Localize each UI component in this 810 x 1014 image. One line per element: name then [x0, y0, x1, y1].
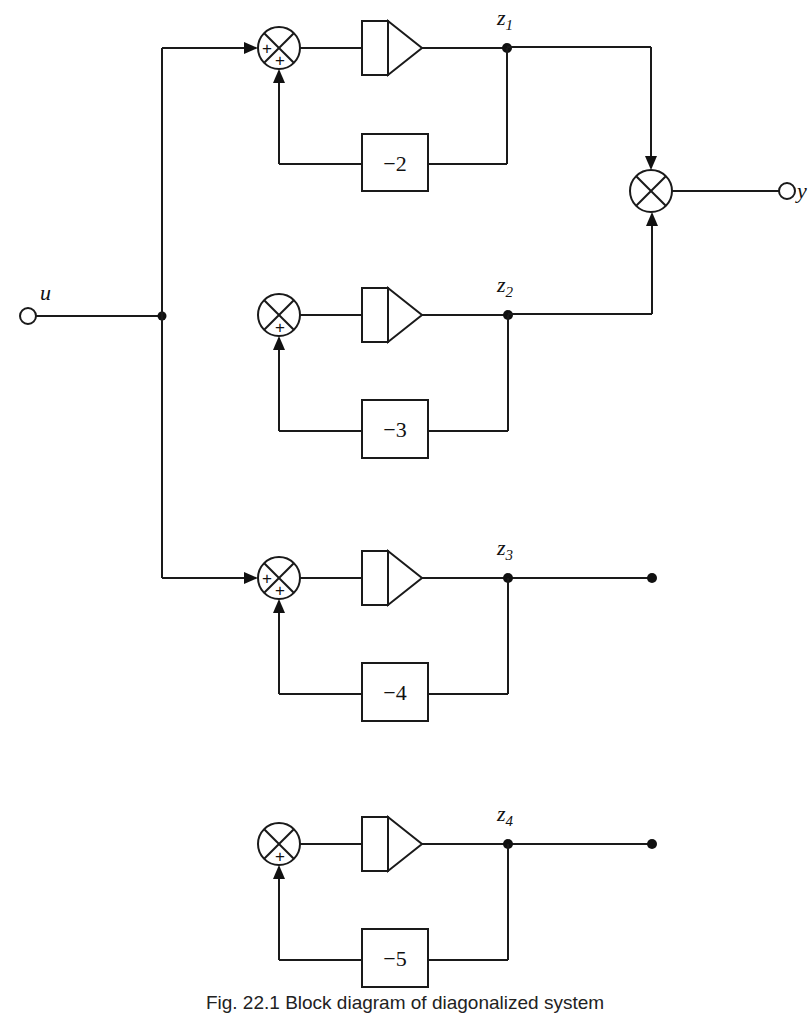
summer-sign-left: + [262, 569, 272, 588]
integrator-icon [362, 21, 422, 75]
summer-sign-bottom: + [275, 318, 285, 337]
summing-junction-icon [630, 170, 672, 212]
arrow-up-icon [273, 599, 285, 613]
input-terminal [20, 308, 167, 324]
state-label: z3 [496, 535, 513, 563]
branch-z3: + + z3 −4 [258, 535, 657, 721]
branch-z1: + + z1 −2 [258, 5, 657, 191]
arrow-up-icon [273, 69, 285, 83]
input-label: u [40, 280, 51, 305]
branch-z2: + z2 −3 [258, 212, 658, 458]
state-label: z4 [496, 801, 514, 829]
branch-z4: + z4 −5 [258, 801, 657, 987]
input-bus [162, 42, 258, 584]
summer-sign-bottom: + [275, 51, 285, 70]
output-end-dot [647, 573, 657, 583]
arrow-right-icon [244, 572, 258, 584]
arrow-right-icon [244, 42, 258, 54]
integrator-icon [362, 288, 422, 342]
output-end-dot [647, 839, 657, 849]
arrow-down-icon [645, 156, 657, 170]
feedback-gain-label: −2 [383, 151, 406, 176]
output-label: y [795, 178, 807, 203]
summer-sign-bottom: + [275, 847, 285, 866]
summer-sign-bottom: + [275, 581, 285, 600]
arrow-up-icon [273, 336, 285, 350]
output-junction [630, 170, 795, 212]
feedback-gain-label: −3 [383, 417, 406, 442]
figure-caption: Fig. 22.1 Block diagram of diagonalized … [0, 992, 810, 1014]
arrow-up-icon [646, 212, 658, 226]
feedback-gain-label: −4 [383, 680, 406, 705]
arrow-up-icon [273, 865, 285, 879]
state-label: z2 [496, 272, 514, 300]
summer-sign-left: + [262, 39, 272, 58]
integrator-icon [362, 817, 422, 871]
output-terminal [779, 183, 795, 199]
feedback-gain-label: −5 [383, 946, 406, 971]
integrator-icon [362, 551, 422, 605]
state-label: z1 [496, 5, 513, 33]
